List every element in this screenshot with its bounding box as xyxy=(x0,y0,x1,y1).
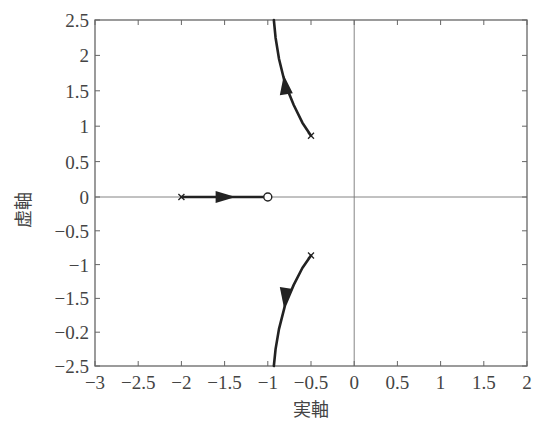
direction-arrows xyxy=(216,75,293,307)
y-tick-label: 2 xyxy=(80,45,90,66)
x-tick-label: −1.5 xyxy=(207,372,241,393)
locus-branches xyxy=(181,20,311,366)
y-tick-label: −0.5 xyxy=(55,221,89,242)
zero-circle-icon xyxy=(264,193,272,201)
x-tick-label: 0.5 xyxy=(386,372,410,393)
lower-branch xyxy=(274,256,311,366)
x-tick-label: −2 xyxy=(171,372,191,393)
y-tick-label: −1 xyxy=(69,255,89,276)
arrow-right-icon xyxy=(216,191,236,203)
y-axis-title: 虚軸 xyxy=(13,192,34,228)
x-tick-label: −2.5 xyxy=(121,372,155,393)
x-tick-label: 0 xyxy=(349,372,359,393)
x-tick-label: 1 xyxy=(436,372,446,393)
y-tick-label: 2.5 xyxy=(65,10,89,31)
root-locus-chart: −3−2.5−2−1.5−1−0.500.511.52 2.521.510.50… xyxy=(0,0,542,435)
arrow-up-icon xyxy=(280,75,293,95)
y-tick-label: −1.5 xyxy=(55,288,89,309)
pole-zero-markers xyxy=(178,133,314,259)
plot-frame xyxy=(95,20,527,366)
x-tick-label: 1.5 xyxy=(472,372,496,393)
axis-ticks xyxy=(95,20,527,366)
y-tick-label: 0.5 xyxy=(65,152,89,173)
y-tick-label: −0.2 xyxy=(55,322,89,343)
x-tick-label: 2 xyxy=(522,372,532,393)
y-tick-label: 0 xyxy=(80,187,90,208)
x-axis-title: 実軸 xyxy=(293,399,329,420)
x-tick-labels: −3−2.5−2−1.5−1−0.500.511.52 xyxy=(85,372,532,393)
upper-branch xyxy=(274,20,311,136)
x-tick-label: −0.5 xyxy=(294,372,328,393)
y-tick-label: 1.5 xyxy=(65,81,89,102)
y-tick-labels: 2.521.510.50−0.5−1−1.5−0.2−2.5 xyxy=(55,10,89,377)
reference-lines xyxy=(95,20,527,366)
y-tick-label: −2.5 xyxy=(55,356,89,377)
y-tick-label: 1 xyxy=(80,116,90,137)
x-tick-label: −1 xyxy=(258,372,278,393)
